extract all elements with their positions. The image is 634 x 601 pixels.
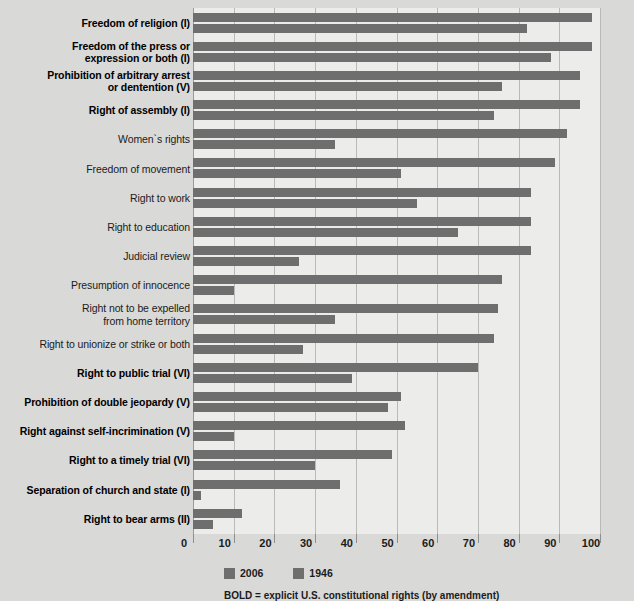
bar-2006 — [193, 217, 531, 226]
category-label-line: Judicial review — [0, 250, 190, 263]
row-bars — [193, 387, 600, 416]
row-bars — [193, 358, 600, 387]
chart-legend: 20061946 — [224, 567, 355, 579]
bar-1946 — [193, 140, 335, 149]
chart-row: Presumption of innocence — [0, 271, 634, 300]
category-label: Prohibition of arbitrary arrestor denten… — [0, 68, 190, 93]
bar-2006 — [193, 275, 502, 284]
row-bars — [193, 8, 600, 37]
chart-row: Freedom of religion (I) — [0, 8, 634, 37]
tick-label-80: 80 — [503, 537, 515, 549]
chart-footnote: BOLD = explicit U.S. constitutional righ… — [224, 590, 499, 601]
category-label-line: Right to education — [0, 221, 190, 234]
bar-1946 — [193, 403, 388, 412]
category-label-line: Right to public trial (VI) — [0, 367, 190, 380]
bar-2006 — [193, 304, 498, 313]
category-label-line: from home territory — [0, 314, 190, 327]
category-label-line: Freedom of the press or — [0, 39, 190, 52]
bar-2006 — [193, 480, 340, 489]
chart-row: Right to unionize or strike or both — [0, 329, 634, 358]
bar-1946 — [193, 520, 213, 529]
chart-row: Right of assembly (I) — [0, 96, 634, 125]
tick-label-40: 40 — [341, 537, 353, 549]
category-label: Right to work — [0, 191, 190, 204]
legend-swatch — [224, 568, 235, 579]
category-label: Right to unionize or strike or both — [0, 337, 190, 350]
chart-row: Separation of church and state (I) — [0, 475, 634, 504]
row-bars — [193, 125, 600, 154]
bar-1946 — [193, 374, 352, 383]
category-label-line: Right not to be expelled — [0, 302, 190, 315]
bar-1946 — [193, 169, 401, 178]
category-label: Right not to be expelledfrom home territ… — [0, 302, 190, 327]
tick-label-90: 90 — [544, 537, 556, 549]
category-label: Right against self-incrimination (V) — [0, 425, 190, 438]
bar-1946 — [193, 228, 458, 237]
bar-2006 — [193, 246, 531, 255]
bar-rows: Freedom of religion (I)Freedom of the pr… — [0, 8, 634, 533]
category-label-line: or dentention (V) — [0, 81, 190, 94]
bar-1946 — [193, 432, 234, 441]
row-bars — [193, 300, 600, 329]
x-axis-tick-labels: 0102030405060708090100 — [0, 537, 634, 553]
category-label: Right to public trial (VI) — [0, 367, 190, 380]
row-bars — [193, 446, 600, 475]
bar-1946 — [193, 491, 201, 500]
bar-1946 — [193, 286, 234, 295]
row-bars — [193, 66, 600, 95]
category-label-line: Separation of church and state (I) — [0, 483, 190, 496]
row-bars — [193, 242, 600, 271]
legend-item: 2006 — [224, 567, 263, 579]
chart-row: Right against self-incrimination (V) — [0, 417, 634, 446]
category-label-line: Right to bear arms (II) — [0, 513, 190, 526]
category-label-line: Right to unionize or strike or both — [0, 337, 190, 350]
bar-1946 — [193, 199, 417, 208]
category-label-line: Right to work — [0, 191, 190, 204]
bar-2006 — [193, 42, 592, 51]
bar-1946 — [193, 461, 315, 470]
row-bars — [193, 271, 600, 300]
category-label-line: expression or both (I) — [0, 52, 190, 65]
chart-row: Judicial review — [0, 242, 634, 271]
bar-1946 — [193, 315, 335, 324]
category-label-line: Right against self-incrimination (V) — [0, 425, 190, 438]
row-bars — [193, 475, 600, 504]
bar-2006 — [193, 100, 580, 109]
bar-1946 — [193, 53, 551, 62]
tick-label-70: 70 — [463, 537, 475, 549]
legend-label: 1946 — [309, 567, 332, 579]
category-label-line: Freedom of movement — [0, 162, 190, 175]
bar-2006 — [193, 509, 242, 518]
chart-row: Prohibition of double jeopardy (V) — [0, 387, 634, 416]
row-bars — [193, 183, 600, 212]
legend-swatch — [293, 568, 304, 579]
category-label-line: Presumption of innocence — [0, 279, 190, 292]
row-bars — [193, 504, 600, 533]
category-label-line: Women`s rights — [0, 133, 190, 146]
chart-row: Right not to be expelledfrom home territ… — [0, 300, 634, 329]
category-label-line: Prohibition of double jeopardy (V) — [0, 396, 190, 409]
category-label: Freedom of movement — [0, 162, 190, 175]
tick-label-0: 0 — [181, 537, 187, 549]
chart-row: Right to bear arms (II) — [0, 504, 634, 533]
row-bars — [193, 154, 600, 183]
bar-2006 — [193, 71, 580, 80]
category-label: Presumption of innocence — [0, 279, 190, 292]
bar-2006 — [193, 392, 401, 401]
bar-2006 — [193, 421, 405, 430]
chart-row: Prohibition of arbitrary arrestor denten… — [0, 66, 634, 95]
chart-row: Right to work — [0, 183, 634, 212]
bar-2006 — [193, 129, 567, 138]
tick-label-100: 100 — [582, 537, 600, 549]
category-label-line: Right of assembly (I) — [0, 104, 190, 117]
tick-label-60: 60 — [422, 537, 434, 549]
chart-row: Women`s rights — [0, 125, 634, 154]
chart-row: Right to public trial (VI) — [0, 358, 634, 387]
tick-label-20: 20 — [259, 537, 271, 549]
category-label: Freedom of religion (I) — [0, 16, 190, 29]
chart-row: Right to education — [0, 212, 634, 241]
category-label: Separation of church and state (I) — [0, 483, 190, 496]
bar-2006 — [193, 334, 494, 343]
tick-label-30: 30 — [300, 537, 312, 549]
